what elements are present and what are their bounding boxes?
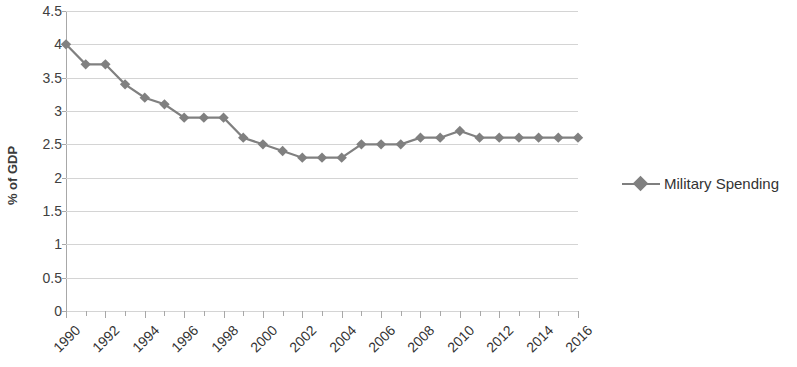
- plot-area: [66, 11, 578, 311]
- x-tick-mark: [302, 311, 303, 318]
- x-tick-mark: [361, 311, 362, 316]
- data-point-marker: [474, 132, 484, 142]
- y-tick-label: 2.5: [6, 136, 62, 152]
- x-tick-mark: [519, 311, 520, 316]
- x-tick-mark: [539, 311, 540, 318]
- y-tick-label: 4.5: [6, 3, 62, 19]
- y-axis-tick-labels: 00.511.522.533.544.5: [0, 0, 62, 367]
- x-tick-mark: [145, 311, 146, 318]
- x-tick-label: 1998: [194, 322, 241, 367]
- data-point-marker: [297, 152, 307, 162]
- x-tick-label: 1994: [115, 322, 162, 367]
- x-tick-label: 2016: [549, 322, 596, 367]
- data-point-marker: [435, 132, 445, 142]
- data-point-marker: [396, 139, 406, 149]
- x-tick-label: 2008: [391, 322, 438, 367]
- data-point-marker: [553, 132, 563, 142]
- x-tick-mark: [401, 311, 402, 316]
- x-tick-label: 1992: [76, 322, 123, 367]
- x-tick-mark: [164, 311, 165, 316]
- data-point-marker: [514, 132, 524, 142]
- x-tick-mark: [578, 311, 579, 318]
- y-tick-label: 3: [6, 103, 62, 119]
- legend-marker-icon: [622, 178, 660, 190]
- x-tick-label: 1996: [155, 322, 202, 367]
- data-point-marker: [317, 152, 327, 162]
- x-tick-mark: [558, 311, 559, 316]
- x-tick-mark: [322, 311, 323, 316]
- x-tick-mark: [204, 311, 205, 316]
- x-tick-mark: [105, 311, 106, 318]
- x-tick-label: 2006: [352, 322, 399, 367]
- y-tick-label: 1.5: [6, 203, 62, 219]
- data-point-marker: [533, 132, 543, 142]
- x-tick-mark: [184, 311, 185, 318]
- x-tick-mark: [381, 311, 382, 318]
- y-tick-label: 4: [6, 36, 62, 52]
- x-tick-label: 2010: [430, 322, 477, 367]
- x-tick-mark: [224, 311, 225, 318]
- x-tick-mark: [499, 311, 500, 318]
- chart-legend: Military Spending: [622, 175, 779, 192]
- data-point-marker: [199, 112, 209, 122]
- x-tick-mark: [480, 311, 481, 316]
- data-point-marker: [258, 139, 268, 149]
- x-tick-label: 2000: [234, 322, 281, 367]
- x-tick-mark: [460, 311, 461, 318]
- x-tick-mark: [263, 311, 264, 318]
- x-tick-mark: [243, 311, 244, 316]
- y-tick-label: 1: [6, 236, 62, 252]
- x-tick-mark: [420, 311, 421, 318]
- x-tick-mark: [66, 311, 67, 318]
- x-tick-label: 2002: [273, 322, 320, 367]
- x-tick-label: 2014: [509, 322, 556, 367]
- data-point-marker: [277, 146, 287, 156]
- x-tick-mark: [86, 311, 87, 316]
- x-tick-mark: [283, 311, 284, 316]
- x-tick-mark: [342, 311, 343, 318]
- line-chart: % of GDP 00.511.522.533.544.5 1990199219…: [0, 0, 797, 367]
- legend-label: Military Spending: [664, 175, 779, 192]
- series-layer: [66, 11, 578, 311]
- x-tick-label: 2004: [312, 322, 359, 367]
- data-point-marker: [455, 126, 465, 136]
- x-tick-label: 2012: [470, 322, 517, 367]
- y-tick-label: 3.5: [6, 70, 62, 86]
- x-tick-mark: [125, 311, 126, 316]
- data-point-marker: [494, 132, 504, 142]
- data-point-marker: [415, 132, 425, 142]
- data-point-marker: [376, 139, 386, 149]
- x-tick-mark: [440, 311, 441, 316]
- y-tick-label: 0: [6, 303, 62, 319]
- y-tick-label: 2: [6, 170, 62, 186]
- y-tick-label: 0.5: [6, 270, 62, 286]
- data-point-marker: [573, 132, 583, 142]
